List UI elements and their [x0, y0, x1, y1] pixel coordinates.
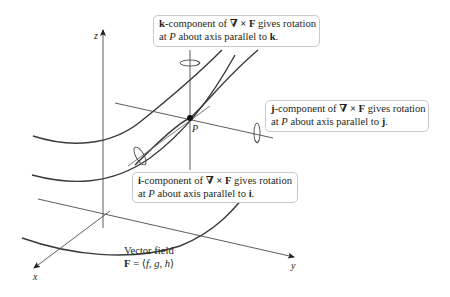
- i-callout-line-1: i-component of ∇ × F gives rotation: [138, 175, 292, 188]
- point-p: [187, 115, 193, 121]
- i-component-callout: i-component of ∇ × F gives rotation at P…: [132, 172, 298, 203]
- j-callout-line-1: j-component of ∇ × F gives rotation: [271, 103, 423, 116]
- j-rotation-icon: [254, 123, 260, 143]
- vector-field-title: Vector field: [124, 245, 174, 257]
- k-callout-line-1: k-component of ∇ × F gives rotation: [159, 18, 314, 31]
- y-axis-label: y: [291, 261, 295, 271]
- i-rotation-icon: [132, 145, 149, 166]
- x-axis-line: [34, 211, 110, 268]
- j-callout-line-2: at P about axis parallel to j.: [271, 116, 423, 129]
- j-component-callout: j-component of ∇ × F gives rotation at P…: [265, 100, 429, 132]
- i-callout-line-2: at P about axis parallel to i.: [138, 188, 292, 201]
- x-axis-label: x: [33, 272, 37, 282]
- z-axis-label: z: [94, 31, 98, 41]
- k-component-callout: k-component of ∇ × F gives rotation at P…: [153, 15, 320, 47]
- vector-field-definition: F = ⟨f, g, h⟩: [124, 258, 174, 270]
- point-p-label: P: [192, 124, 198, 134]
- k-callout-line-2: at P about axis parallel to k.: [159, 31, 314, 44]
